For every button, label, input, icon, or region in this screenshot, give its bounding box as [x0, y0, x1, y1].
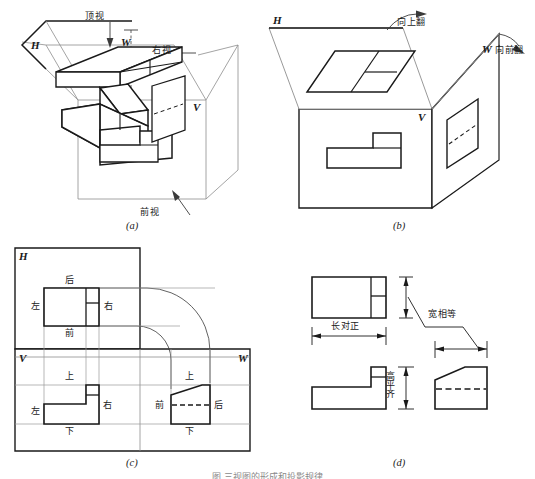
panel-b-w-plane-label: W: [482, 44, 492, 55]
panel-c-side-view-bottom-label: 下: [185, 427, 195, 436]
panel-d-drawing: [267, 239, 535, 479]
panel-c-top-view-shape: [44, 288, 99, 326]
panel-b-fold-forward-label: 向前翻: [495, 46, 524, 55]
panel-a-v-plane-label: V: [193, 102, 200, 113]
panel-c-side-view-left-label: 前: [155, 401, 165, 410]
figure-caption: 图 三视图的形成和投影规律: [0, 470, 535, 479]
panel-d-width-rule-label: 宽相等: [428, 310, 457, 319]
panel-c-front-view-right-label: 右: [103, 401, 113, 410]
panel-d-height-rule-label: 高平齐: [385, 371, 395, 398]
panel-b-caption: (b): [393, 221, 405, 232]
panel-a-right-arrow-leader: [198, 45, 238, 55]
panel-c-unfolded-views: H V W 后 左 右 前 上 左 右 下 上 前 后 下 (c): [0, 239, 268, 479]
panel-d-front-view-shape: [312, 367, 386, 409]
panel-d-width-rule-leader: [408, 297, 479, 349]
panel-c-w-plane-label: W: [238, 353, 248, 364]
panel-d-top-view-shape: [312, 277, 386, 318]
panel-c-top-view-front-label: 前: [65, 329, 75, 338]
panel-a-drawing: [0, 0, 268, 240]
panel-c-top-view-left-label: 左: [31, 302, 41, 311]
panel-d-caption: (d): [393, 458, 405, 469]
panel-c-drawing: [0, 239, 268, 479]
panel-c-front-view-bottom-label: 下: [65, 427, 75, 436]
panel-c-top-view-right-label: 右: [104, 302, 114, 311]
panel-b-v-plane-label: V: [418, 112, 425, 123]
panel-a-h-plane-label: H: [31, 40, 40, 51]
panel-a-h-plane-wedge-thin: [46, 21, 78, 100]
panel-a-right-view-label: 右视: [152, 46, 171, 55]
panel-b-fold-up-label: 向上翻: [397, 18, 426, 27]
panel-b-drawing: [267, 0, 535, 240]
panel-a-front-view-label: 前视: [140, 208, 159, 217]
panel-a-caption: (a): [126, 221, 138, 232]
panel-a-front-arrow-line: [178, 198, 190, 215]
panel-b-unfolding: H V W 向上翻 向前翻 (b): [267, 0, 535, 240]
panel-a-projection-system: 顶视 右视 前视 H V W (a): [0, 0, 268, 240]
panel-d-length-rule-label: 长对正: [331, 322, 360, 331]
panel-c-h-plane-label: H: [19, 251, 28, 262]
panel-c-v-plane-label: V: [19, 353, 26, 364]
panel-c-side-view-right-label: 后: [214, 401, 224, 410]
panel-c-top-view-back-label: 后: [65, 276, 75, 285]
panel-c-front-view-left-label: 左: [31, 407, 41, 416]
panel-c-side-view-top-label: 上: [185, 372, 195, 381]
panel-c-caption: (c): [126, 458, 138, 469]
panel-a-w-plane-label: W: [121, 37, 131, 48]
panel-a-top-arrow-head: [107, 38, 114, 48]
panel-d-side-view-shape: [435, 367, 487, 409]
panel-a-top-view-label: 顶视: [85, 12, 104, 21]
panel-d-projection-rules: 长对正 宽相等 高平齐 (d): [267, 239, 535, 479]
panel-c-front-view-top-label: 上: [65, 372, 75, 381]
panel-b-h-plane-label: H: [273, 15, 282, 26]
